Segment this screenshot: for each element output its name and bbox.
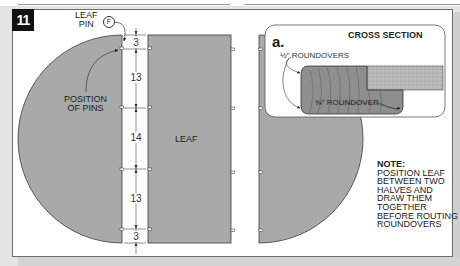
leaf-pin-callout-circle: F [103,16,115,28]
figure-number-badge: 11 [12,9,34,31]
note-block: NOTE: POSITION LEAF BETWEEN TWO HALVES A… [377,160,458,229]
leaf-pin-label-line2: PIN [75,20,98,29]
dimension-label: 14 [129,132,143,143]
half-inch-roundovers-label: ½" ROUNDOVERS [280,51,349,60]
dimension-label: 3 [129,231,143,242]
left-table-half [18,35,124,243]
pin-icon [120,47,124,50]
dimension-label: 3 [129,37,143,48]
detail-letter: a. [272,33,285,50]
three-eighths-roundover-label: ⅜" ROUNDOVER [315,98,379,107]
position-of-pins-line2: OF PINS [64,104,107,113]
leaf-label: LEAF [175,135,198,144]
pin-icon [120,106,124,109]
cross-section-title: CROSS SECTION [348,30,423,40]
dimension-label: 13 [129,72,143,83]
pin-icon [120,168,124,171]
dimension-label: 13 [129,193,143,204]
position-of-pins-label: POSITION OF PINS [64,95,107,113]
pin-icon [120,228,124,231]
leaf-pin-label: LEAF PIN [75,11,98,29]
note-line: ROUNDOVERS [377,220,458,229]
